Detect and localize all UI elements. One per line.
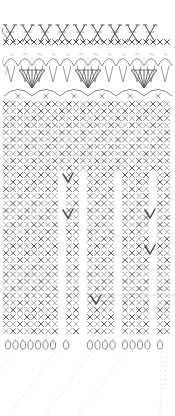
single-crochet-x-symbol	[4, 236, 9, 241]
single-crochet-x-symbol	[4, 187, 9, 192]
single-crochet-x-symbol	[102, 116, 107, 121]
single-crochet-x-symbol	[95, 222, 100, 227]
single-crochet-x-symbol	[53, 279, 58, 284]
single-crochet-x-symbol	[116, 130, 121, 135]
single-crochet-x-symbol	[32, 130, 37, 135]
single-crochet-x-symbol	[123, 215, 128, 220]
v-stitch-leg	[109, 66, 113, 82]
single-crochet-x-symbol	[39, 144, 44, 149]
single-crochet-x-symbol	[116, 116, 121, 121]
single-crochet-x-symbol	[144, 258, 149, 263]
single-crochet-x-symbol	[109, 109, 114, 114]
single-crochet-x-symbol	[4, 315, 9, 320]
single-crochet-x-symbol	[158, 123, 163, 128]
single-crochet-x-symbol	[4, 293, 9, 298]
single-crochet-x-symbol	[32, 236, 37, 241]
single-crochet-x-symbol	[4, 123, 9, 128]
single-crochet-x-symbol	[4, 322, 9, 327]
single-crochet-x-symbol	[123, 130, 128, 135]
single-crochet-x-symbol	[109, 151, 114, 156]
single-crochet-x-symbol	[116, 109, 121, 114]
single-crochet-x-symbol	[130, 165, 135, 170]
picot-arch	[102, 59, 116, 67]
single-crochet-x-symbol	[151, 116, 156, 121]
single-crochet-x-symbol	[144, 137, 149, 142]
single-crochet-x-symbol	[32, 173, 37, 178]
single-crochet-x-symbol	[4, 286, 9, 291]
single-crochet-x-symbol	[144, 229, 149, 234]
single-crochet-x-symbol	[44, 94, 48, 98]
single-crochet-x-symbol	[109, 187, 114, 192]
single-crochet-x-symbol	[165, 258, 170, 263]
single-crochet-x-symbol	[158, 315, 163, 320]
single-crochet-x-symbol	[109, 130, 114, 135]
single-crochet-x-symbol	[74, 307, 79, 312]
single-crochet-x-symbol	[158, 40, 163, 45]
chain-stitch-oval	[28, 339, 33, 349]
single-crochet-x-symbol	[102, 187, 107, 192]
single-crochet-x-symbol	[67, 165, 72, 170]
single-crochet-x-symbol	[18, 229, 23, 234]
single-crochet-x-symbol	[18, 222, 23, 227]
single-crochet-x-symbol	[158, 165, 163, 170]
single-crochet-x-symbol	[109, 116, 114, 121]
single-crochet-x-symbol	[39, 293, 44, 298]
single-crochet-x-symbol	[102, 102, 107, 107]
single-crochet-x-symbol	[144, 272, 149, 277]
single-crochet-x-symbol	[109, 272, 114, 277]
single-crochet-x-symbol	[88, 208, 93, 213]
connecting-arch	[32, 90, 60, 97]
single-crochet-x-symbol	[46, 102, 51, 107]
picot-arch	[158, 59, 172, 67]
single-crochet-x-symbol	[165, 201, 170, 206]
single-crochet-x-symbol	[156, 94, 160, 98]
single-crochet-x-symbol	[81, 109, 86, 114]
single-crochet-x-symbol	[165, 286, 170, 291]
single-crochet-x-symbol	[137, 173, 142, 178]
single-crochet-x-symbol	[95, 123, 100, 128]
single-crochet-x-symbol	[109, 251, 114, 256]
single-crochet-x-symbol	[11, 222, 16, 227]
single-crochet-x-symbol	[123, 123, 128, 128]
single-crochet-x-symbol	[74, 251, 79, 256]
single-crochet-x-symbol	[130, 201, 135, 206]
single-crochet-x-symbol	[46, 236, 51, 241]
v-stitch-leg	[165, 66, 169, 82]
single-crochet-x-symbol	[4, 194, 9, 199]
single-crochet-x-symbol	[67, 144, 72, 149]
single-crochet-x-symbol	[165, 279, 170, 284]
single-crochet-x-symbol	[18, 102, 23, 107]
single-crochet-x-symbol	[18, 187, 23, 192]
single-crochet-x-symbol	[95, 279, 100, 284]
single-crochet-x-symbol	[123, 151, 128, 156]
single-crochet-x-symbol	[18, 279, 23, 284]
single-crochet-x-symbol	[102, 151, 107, 156]
single-crochet-x-symbol	[18, 236, 23, 241]
single-crochet-x-symbol	[158, 265, 163, 270]
single-crochet-x-symbol	[32, 165, 37, 170]
single-crochet-x-symbol	[109, 102, 114, 107]
single-crochet-x-symbol	[74, 137, 79, 142]
single-crochet-x-symbol	[158, 300, 163, 305]
single-crochet-x-symbol	[46, 144, 51, 149]
single-crochet-x-symbol	[11, 130, 16, 135]
single-crochet-x-symbol	[123, 102, 128, 107]
single-crochet-x-symbol	[144, 123, 149, 128]
single-crochet-x-symbol	[18, 180, 23, 185]
single-crochet-x-symbol	[116, 123, 121, 128]
single-crochet-x-symbol	[53, 307, 58, 312]
single-crochet-x-symbol	[130, 272, 135, 277]
single-crochet-x-symbol	[95, 265, 100, 270]
single-crochet-x-symbol	[11, 229, 16, 234]
single-crochet-x-symbol	[102, 158, 107, 163]
single-crochet-x-symbol	[74, 229, 79, 234]
v-stitch-leg	[119, 66, 123, 82]
single-crochet-x-symbol	[67, 151, 72, 156]
single-crochet-x-symbol	[18, 208, 23, 213]
single-crochet-x-symbol	[74, 300, 79, 305]
chain-stitch-oval	[20, 339, 25, 349]
single-crochet-x-symbol	[25, 194, 30, 199]
single-crochet-x-symbol	[165, 137, 170, 142]
single-crochet-x-symbol	[11, 293, 16, 298]
single-crochet-x-symbol	[25, 180, 30, 185]
